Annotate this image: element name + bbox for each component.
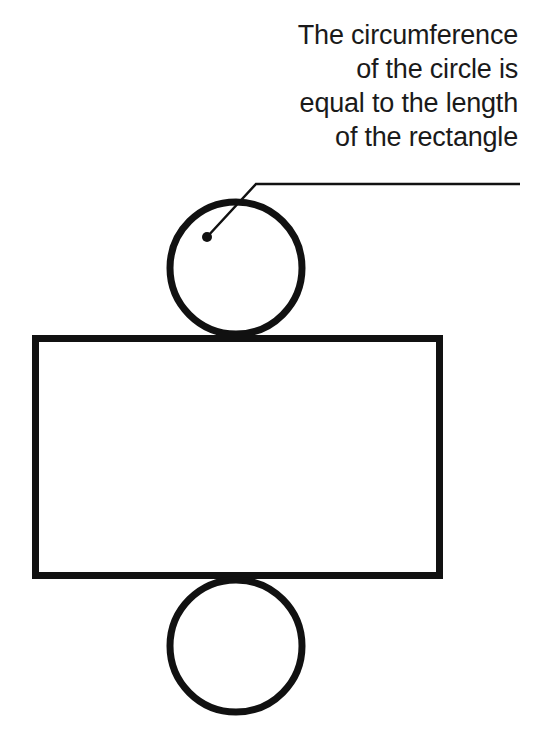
cylinder-net-diagram [0, 0, 548, 749]
rectangle [36, 339, 440, 576]
bottom-circle [170, 580, 302, 712]
leader-dot [202, 232, 212, 242]
top-circle [170, 202, 302, 334]
leader-line [207, 184, 520, 237]
